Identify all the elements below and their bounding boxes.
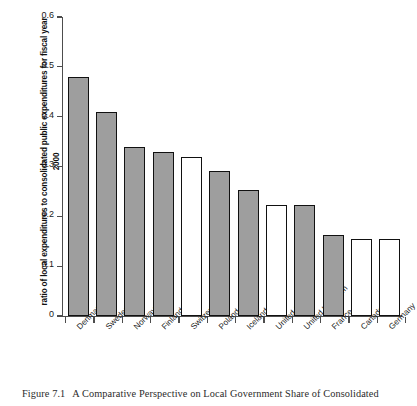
bar-poland [209, 171, 230, 317]
bar-finland [153, 152, 174, 316]
y-axis-tick-label: 0.2 [41, 209, 54, 219]
y-axis-tick-label: 0.6 [41, 10, 54, 20]
y-axis-tick: 0.4 [57, 116, 62, 117]
x-axis-tick [65, 317, 66, 323]
y-axis-line [62, 17, 63, 316]
y-axis-tick-label: 0.1 [41, 259, 54, 269]
y-axis-tick: 0.1 [57, 266, 62, 267]
y-axis-tick-label: 0.4 [41, 110, 54, 120]
y-axis-tick: 0.5 [57, 66, 62, 67]
plot-area: 0.60.50.40.30.20.10DenmarkSwedenNorwayFi… [62, 17, 402, 316]
y-axis-tick-label: 0 [49, 309, 54, 319]
bar-united-kingdom [294, 205, 315, 316]
bar-canada [351, 239, 372, 316]
bar-iceland [238, 190, 259, 316]
bar-sweden [96, 112, 117, 316]
bar-switzerland [181, 157, 202, 316]
y-axis-tick: 0.3 [57, 166, 62, 167]
bar-denmark [68, 77, 89, 316]
y-axis-tick-label: 0.3 [41, 159, 54, 169]
bar-united-states [266, 205, 287, 316]
y-axis-tick: 0 [57, 315, 62, 316]
bar-germany [379, 239, 400, 316]
y-axis-tick: 0.2 [57, 216, 62, 217]
y-axis-tick-label: 0.5 [41, 60, 54, 70]
figure-caption: Figure 7.1A Comparative Perspective on L… [22, 387, 396, 400]
y-axis-tick: 0.6 [57, 16, 62, 17]
figure-caption-text: A Comparative Perspective on Local Gover… [72, 388, 378, 399]
bar-norway [124, 147, 145, 316]
figure-number: Figure 7.1 [22, 388, 65, 399]
bar-france [323, 235, 344, 316]
